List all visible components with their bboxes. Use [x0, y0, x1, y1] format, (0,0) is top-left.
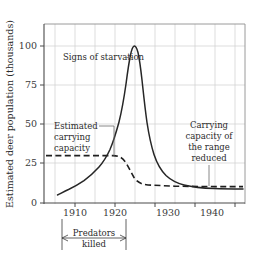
x-tick-label-1910: 1910 — [63, 207, 87, 218]
y-tick-label-50: 50 — [25, 118, 37, 129]
predators-killed-line-1: Predators — [73, 228, 115, 238]
predators-killed-line-2: killed — [82, 239, 106, 249]
deer-population-figure: 100 75 50 25 0 1910 1920 1930 1940 Estim… — [0, 0, 258, 259]
carrying-capacity-reduced-line-1: Carrying — [190, 120, 229, 130]
estimated-carrying-capacity-line-2: carrying — [54, 132, 91, 142]
x-tick-label-1920: 1920 — [103, 207, 127, 218]
estimated-carrying-capacity-line-1: Estimated — [54, 121, 98, 131]
carrying-capacity-reduced-line-3: the range — [188, 142, 230, 152]
signs-of-starvation-label: Signs of starvation — [63, 52, 145, 62]
chart-canvas: 100 75 50 25 0 1910 1920 1930 1940 Estim… — [0, 0, 258, 259]
estimated-carrying-capacity-line-3: capacity — [54, 143, 90, 153]
x-tick-label-1930: 1930 — [156, 207, 180, 218]
x-tick-label-1940: 1940 — [200, 207, 224, 218]
y-tick-label-25: 25 — [25, 157, 37, 168]
y-axis-title: Estimated deer population (thousands) — [4, 20, 15, 208]
y-tick-label-100: 100 — [19, 40, 37, 51]
annotation-signs-of-starvation: Signs of starvation — [63, 52, 145, 62]
carrying-capacity-reduced-line-4: reduced — [191, 153, 227, 163]
y-tick-label-75: 75 — [25, 79, 37, 90]
carrying-capacity-reduced-line-2: capacity of — [186, 131, 234, 141]
y-tick-label-0: 0 — [31, 197, 37, 208]
